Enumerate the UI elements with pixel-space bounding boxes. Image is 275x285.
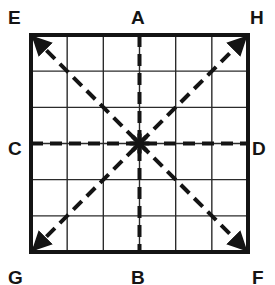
vertex-label-D: D	[252, 139, 266, 158]
vertex-label-C: C	[8, 139, 22, 158]
vertex-label-G: G	[8, 268, 23, 285]
grid-square-diagram	[0, 0, 275, 285]
vertex-label-E: E	[8, 8, 21, 27]
figure-canvas: E A H C D G B F	[0, 0, 275, 285]
vertex-label-F: F	[252, 268, 264, 285]
vertex-label-A: A	[131, 8, 145, 27]
center-asterisk-icon	[131, 135, 149, 153]
vertex-label-B: B	[131, 268, 145, 285]
vertex-label-H: H	[250, 8, 264, 27]
